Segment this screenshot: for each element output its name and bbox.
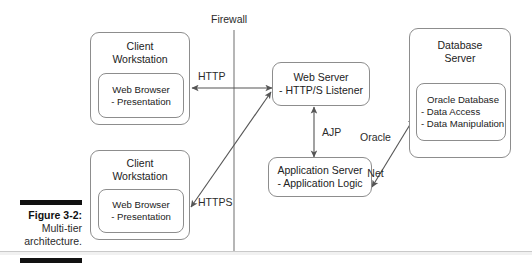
node-database-server: Database Server Oracle Database - Data A… [409, 28, 511, 158]
database-server-title: Database Server [410, 39, 510, 65]
connector-http-label: HTTP [198, 70, 225, 82]
connector-https-label: HTTPS [198, 196, 232, 208]
database-server-title-line2: Server [410, 52, 510, 65]
node-web-browser-https: Web Browser - Presentation [98, 189, 184, 233]
application-server-line1: Application Server [277, 164, 362, 177]
caption-bottom-bar [20, 258, 82, 263]
connector-https-arrow [191, 92, 271, 207]
figure-caption-line1: Multi-tier [0, 222, 82, 235]
client-workstation-https-title: Client Workstation [91, 157, 189, 183]
page-edge-shadow [0, 252, 532, 255]
node-application-server: Application Server - Application Logic [268, 157, 372, 197]
oracle-net-label-line1: Oracle [360, 131, 391, 143]
caption-top-bar [20, 200, 82, 205]
web-browser-https-line1: Web Browser [112, 199, 169, 211]
client-workstation-https-title-line2: Workstation [91, 170, 189, 183]
node-web-browser-http: Web Browser - Presentation [98, 73, 184, 118]
application-server-line2: - Application Logic [277, 177, 362, 190]
node-client-workstation-http: Client Workstation Web Browser - Present… [90, 32, 190, 125]
web-server-line1: Web Server [293, 71, 348, 84]
figure-caption-line2: architecture. [0, 235, 82, 248]
database-server-title-line1: Database [410, 39, 510, 52]
oracle-database-line1: Oracle Database [421, 94, 505, 106]
client-workstation-http-title: Client Workstation [91, 40, 189, 66]
client-workstation-http-title-line1: Client [91, 40, 189, 53]
client-workstation-http-title-line2: Workstation [91, 53, 189, 66]
firewall-label: Firewall [211, 13, 247, 25]
figure-caption: Figure 3-2: Multi-tier architecture. [0, 209, 82, 248]
client-workstation-https-title-line1: Client [91, 157, 189, 170]
oracle-net-label-line2: Net [360, 167, 391, 179]
oracle-database-line2: - Data Access [421, 106, 480, 118]
oracle-database-line3: - Data Manipulation [421, 118, 504, 130]
node-client-workstation-https: Client Workstation Web Browser - Present… [90, 150, 190, 240]
web-browser-https-line2: - Presentation [111, 211, 171, 223]
node-web-server: Web Server - HTTP/S Listener [272, 62, 370, 106]
web-browser-http-line1: Web Browser [112, 84, 169, 96]
figure-caption-number: Figure 3-2: [0, 209, 82, 222]
web-browser-http-line2: - Presentation [111, 96, 171, 108]
connector-ajp-label: AJP [322, 126, 341, 138]
node-oracle-database: Oracle Database - Data Access - Data Man… [416, 83, 506, 141]
connector-oracle-net-label: Oracle Net [360, 107, 391, 203]
web-server-line2: - HTTP/S Listener [279, 84, 363, 97]
figure-page: Firewall Client Workstation Web Browser … [0, 0, 532, 268]
